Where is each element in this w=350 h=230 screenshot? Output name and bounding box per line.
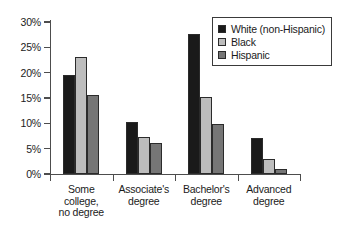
legend-item-label: White (non-Hispanic)	[231, 23, 325, 35]
x-axis-category-label: Associate's degree	[113, 184, 176, 207]
x-axis-separator-tick	[300, 174, 301, 181]
x-axis-category-label: Advanced degree	[238, 184, 301, 207]
bar	[188, 34, 200, 174]
bar	[63, 75, 75, 174]
x-axis-category-label: Some college, no degree	[50, 184, 113, 219]
y-axis-tick-label: 0%	[26, 168, 41, 180]
bar	[126, 122, 138, 174]
legend-swatch-icon	[218, 38, 226, 46]
legend-item-label: Black	[231, 36, 256, 48]
legend: White (non-Hispanic)BlackHispanic	[212, 17, 332, 66]
legend-item: Black	[218, 35, 325, 48]
legend-swatch-icon	[218, 51, 226, 59]
legend-item: White (non-Hispanic)	[218, 22, 325, 35]
bar	[275, 169, 287, 174]
y-axis-tick-label: 5%	[26, 143, 41, 155]
bar	[212, 124, 224, 174]
x-axis-separator-tick	[175, 174, 176, 181]
legend-item-label: Hispanic	[231, 49, 270, 61]
bar-chart: 0%5%10%15%20%25%30% Some college, no deg…	[0, 0, 350, 230]
bar	[200, 97, 212, 174]
x-axis-separator-tick	[238, 174, 239, 181]
x-axis-category-label: Bachelor's degree	[175, 184, 238, 207]
bar	[75, 57, 87, 174]
y-axis-tick-label: 10%	[21, 117, 41, 129]
y-axis-tick-label: 20%	[21, 67, 41, 79]
y-axis-tick-label: 25%	[21, 41, 41, 53]
legend-swatch-icon	[218, 25, 226, 33]
x-axis-separator-tick	[50, 174, 51, 181]
bar	[251, 138, 263, 174]
legend-item: Hispanic	[218, 48, 325, 61]
bar	[263, 159, 275, 174]
y-axis-tick-label: 30%	[21, 16, 41, 28]
bar	[87, 95, 99, 174]
bar	[138, 137, 150, 174]
y-axis-tick-label: 15%	[21, 92, 41, 104]
x-axis-separator-tick	[113, 174, 114, 181]
bar	[150, 143, 162, 174]
